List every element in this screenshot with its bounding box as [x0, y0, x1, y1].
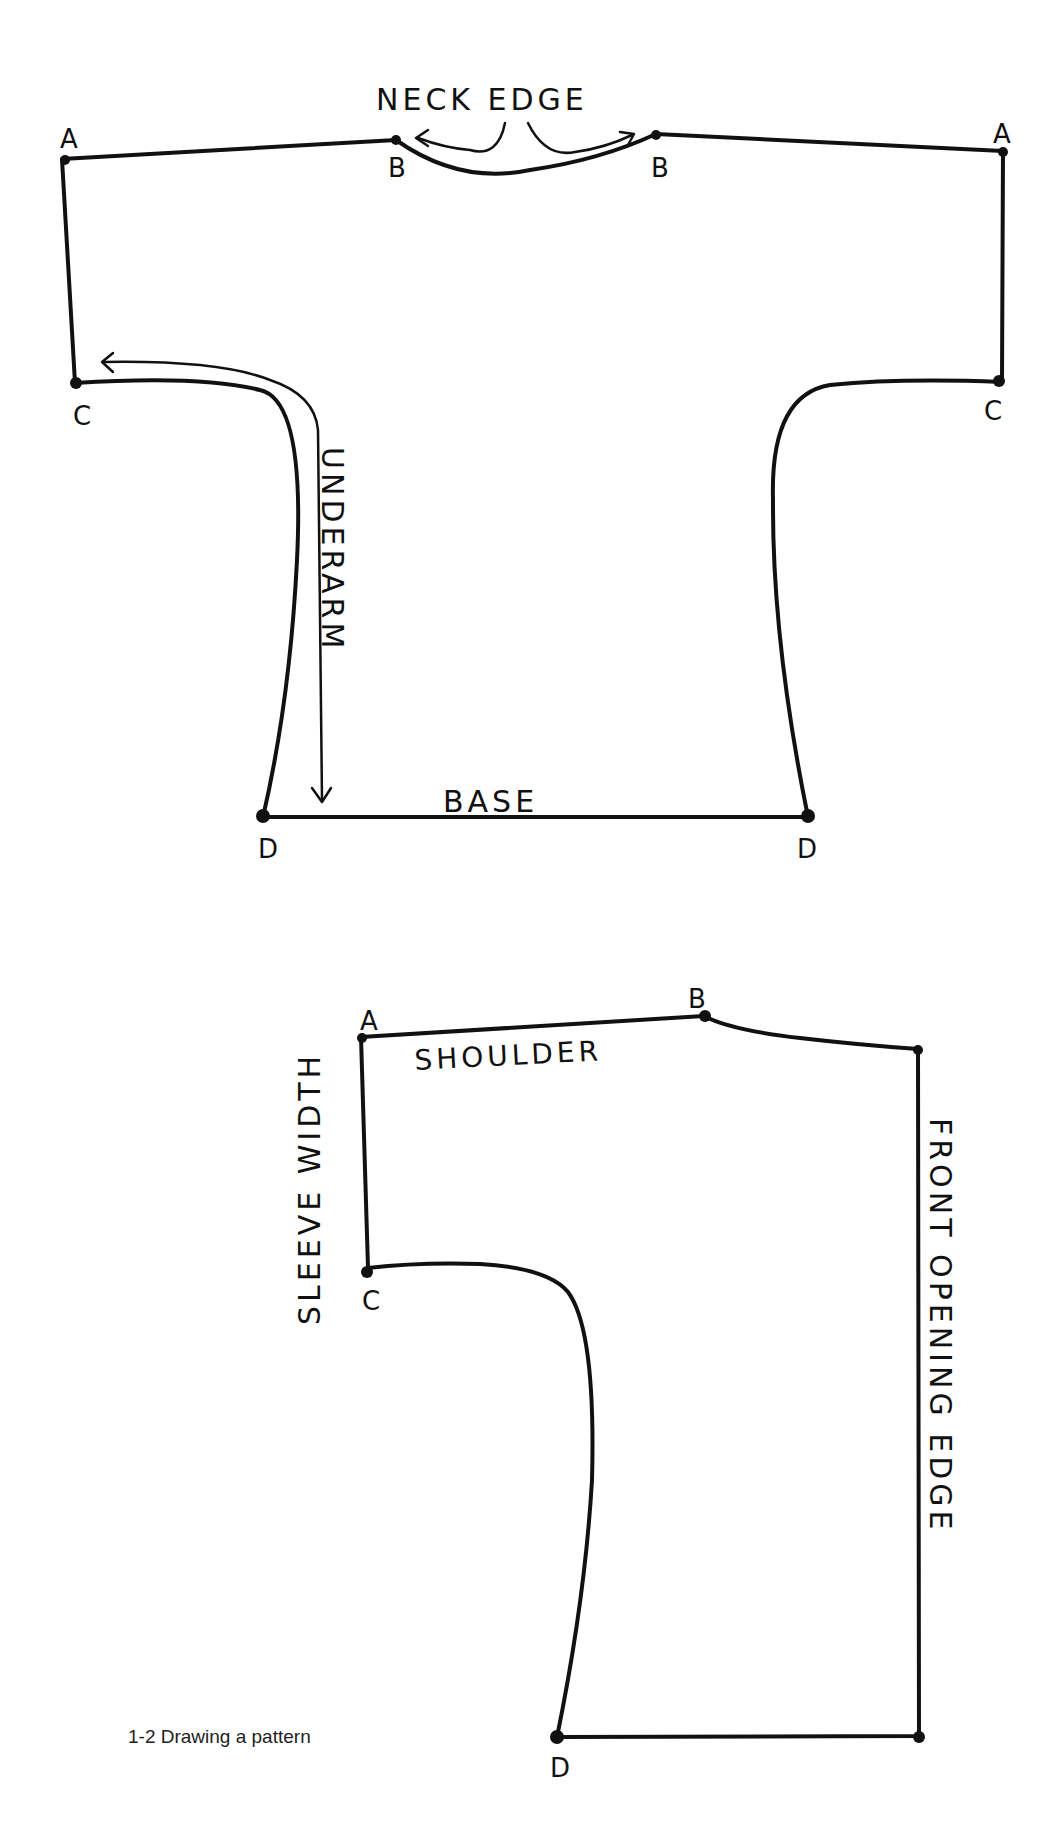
point-d-left-label: D	[258, 834, 278, 864]
shoulder-label: SHOULDER	[414, 1034, 603, 1077]
point-b-left-dot	[391, 135, 401, 145]
point-d-label: D	[550, 1753, 570, 1783]
point-a-right-label: A	[993, 119, 1011, 149]
bottom-pattern-outline	[361, 1016, 919, 1737]
top-pattern-outline	[62, 134, 1003, 817]
bottom-pattern: SHOULDER SLEEVE WIDTH FRONT OPENING EDGE…	[292, 984, 958, 1783]
front-opening-edge-label: FRONT OPENING EDGE	[923, 1118, 958, 1533]
front-bottom-corner-dot	[913, 1731, 925, 1743]
top-pattern: NECK EDGE BASE UNDERARM A B B A C C D D	[60, 82, 1011, 864]
point-c-left-dot	[70, 377, 82, 389]
underarm-label: UNDERARM	[315, 447, 350, 652]
point-b-left-label: B	[388, 153, 406, 183]
point-c-dot	[361, 1266, 373, 1278]
point-d-left-dot	[256, 809, 270, 823]
point-d-right-dot	[801, 809, 815, 823]
point-c-left-label: C	[73, 401, 91, 431]
point-a-left-label: A	[60, 124, 78, 154]
point-b-label: B	[688, 984, 706, 1014]
point-c-right-dot	[993, 375, 1005, 387]
point-b-right-label: B	[651, 153, 669, 183]
point-d-dot	[550, 1730, 564, 1744]
point-a-left-dot	[60, 155, 70, 165]
pattern-diagram: NECK EDGE BASE UNDERARM A B B A C C D D …	[0, 0, 1047, 1823]
figure-caption: 1-2 Drawing a pattern	[128, 1726, 311, 1748]
neck-edge-label: NECK EDGE	[376, 82, 588, 117]
neck-edge-arrow-left	[418, 123, 505, 151]
neck-edge-arrowhead-left	[416, 130, 428, 146]
point-c-right-label: C	[984, 396, 1002, 426]
front-top-corner-dot	[913, 1045, 923, 1055]
point-c-label: C	[362, 1286, 380, 1316]
base-label: BASE	[443, 784, 538, 819]
point-b-right-dot	[651, 130, 661, 140]
point-d-right-label: D	[797, 834, 817, 864]
sleeve-width-label: SLEEVE WIDTH	[292, 1052, 327, 1325]
point-a-label: A	[360, 1006, 378, 1036]
